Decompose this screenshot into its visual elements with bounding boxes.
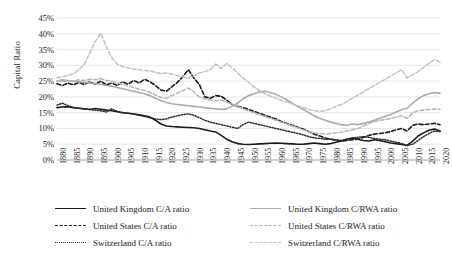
chart-legend: United Kingdom C/A ratioUnited States C/… [0, 196, 452, 258]
legend-item[interactable]: United States C/A ratio [55, 217, 177, 234]
legend-item[interactable]: Switzerland C/RWA ratio [250, 234, 380, 251]
legend-item[interactable]: United Kingdom C/A ratio [55, 200, 189, 217]
series-line [57, 80, 440, 125]
legend-swatch [250, 225, 281, 226]
series-line [57, 103, 440, 145]
legend-label: Switzerland C/RWA ratio [288, 238, 380, 248]
legend-label: United States C/RWA ratio [288, 221, 385, 231]
legend-label: United Kingdom C/RWA ratio [288, 204, 397, 214]
legend-label: United States C/A ratio [93, 221, 177, 231]
legend-swatch [250, 242, 281, 243]
legend-item[interactable]: United Kingdom C/RWA ratio [250, 200, 397, 217]
series-line [57, 33, 440, 111]
legend-swatch [55, 208, 86, 209]
legend-item[interactable]: United States C/RWA ratio [250, 217, 385, 234]
legend-label: United Kingdom C/A ratio [93, 204, 189, 214]
legend-swatch [55, 242, 86, 243]
legend-label: Switzerland C/A ratio [93, 238, 172, 248]
legend-swatch [55, 225, 86, 226]
legend-swatch [250, 208, 281, 209]
legend-item[interactable]: Switzerland C/A ratio [55, 234, 172, 251]
chart-container: Capital Ratio 45%40%35%30%25%20%15%10%5%… [0, 0, 452, 258]
